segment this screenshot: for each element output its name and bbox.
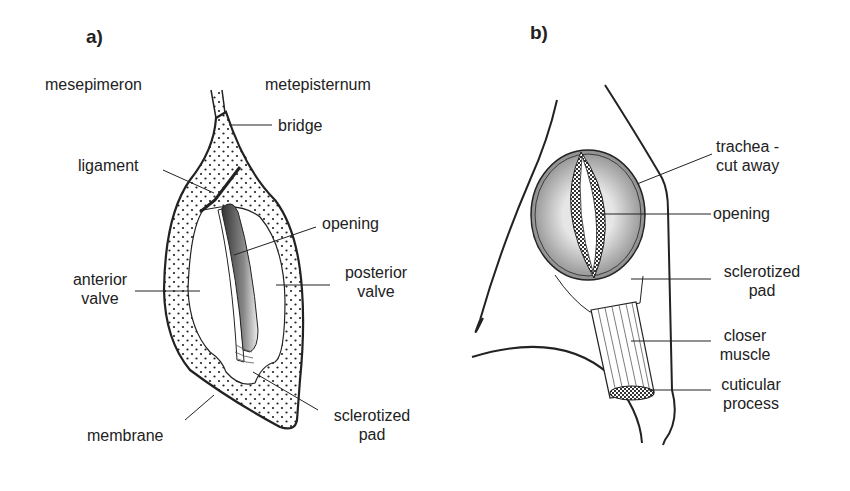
- label-sclerotized-pad-b: sclerotized pad: [712, 262, 812, 300]
- label-opening-a: opening: [322, 214, 379, 233]
- label-closer-muscle: closer muscle: [712, 326, 778, 364]
- label-opening-b: opening: [713, 204, 770, 223]
- label-trachea: trachea - cut away: [716, 137, 779, 175]
- panel-a-tag: a): [86, 26, 103, 48]
- label-sclerotized-pad-a: sclerotized pad: [322, 406, 422, 444]
- label-bridge: bridge: [278, 116, 322, 135]
- label-anterior-valve: anterior valve: [62, 270, 138, 308]
- diagram-canvas: [0, 0, 850, 491]
- panel-b-tag: b): [530, 22, 548, 44]
- label-membrane: membrane: [87, 426, 163, 445]
- spiracle-b-muscle: [555, 275, 654, 400]
- label-cuticular-process: cuticular process: [712, 375, 790, 413]
- label-mesepimeron: mesepimeron: [45, 75, 142, 94]
- label-posterior-valve: posterior valve: [334, 263, 418, 301]
- spiracle-b-disc: [531, 150, 645, 280]
- label-ligament: ligament: [78, 156, 138, 175]
- label-metepisternum: metepisternum: [265, 75, 371, 94]
- spiracle-a-illustration: [164, 90, 303, 428]
